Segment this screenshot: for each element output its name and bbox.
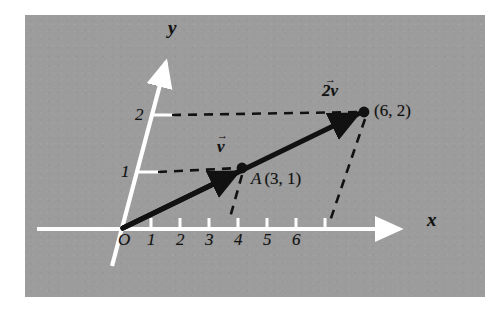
x-tick-label-6: 6: [292, 231, 301, 248]
point-b-dot: [359, 107, 370, 118]
guide-x6-drop: [330, 119, 365, 221]
x-tick-label-2: 2: [176, 231, 185, 248]
point-a-name: A: [251, 169, 261, 188]
vector-diagram-svg: [0, 0, 502, 319]
vector-v-label-text: v: [217, 137, 225, 156]
x-tick-label-4: 4: [234, 231, 243, 248]
guide-y1-horizontal: [158, 168, 239, 172]
x-tick-label-1: 1: [147, 231, 156, 248]
y-axis-label: y: [168, 18, 176, 37]
vector-2v-label-text: 2v: [322, 81, 338, 100]
y-tick-label-2: 2: [135, 106, 144, 123]
x-axis: [37, 218, 400, 229]
y-tick-label-1: 1: [121, 163, 130, 180]
figure-page: x y O 1 2 3 4 5 6 1 2 → v → 2v A(3, 1) (…: [0, 0, 502, 319]
point-a-dot: [237, 163, 248, 174]
point-b-coords: (6, 2): [374, 102, 411, 119]
vector-v-label: → v: [217, 133, 227, 155]
x-tick-label-5: 5: [263, 231, 272, 248]
vector-2v-label: → 2v: [322, 77, 338, 99]
point-a-label: A(3, 1): [251, 170, 301, 187]
x-axis-label: x: [427, 210, 437, 229]
x-tick-label-3: 3: [205, 231, 214, 248]
guide-x3-drop: [229, 175, 242, 221]
guide-y2-horizontal: [172, 112, 359, 115]
x-tick-label-origin: O: [118, 231, 130, 248]
point-a-coords: (3, 1): [261, 169, 301, 188]
